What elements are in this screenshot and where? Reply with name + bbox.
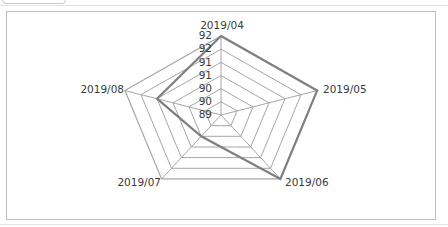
tick-label: 91 — [199, 69, 212, 81]
radial-axis-tick-labels: 92 92 91 91 90 90 89 — [199, 29, 212, 120]
category-label-2019-05: 2019/05 — [323, 83, 367, 95]
tick-label: 90 — [199, 95, 212, 107]
grid-spoke — [221, 91, 317, 115]
radar-chart: 92 92 91 91 90 90 89 2019/04 2019/05 201… — [0, 0, 448, 227]
tick-label: 89 — [199, 108, 212, 120]
tick-label: 90 — [199, 82, 212, 94]
category-label-2019-04: 2019/04 — [200, 19, 244, 31]
tick-label: 92 — [199, 42, 212, 54]
category-label-2019-07: 2019/07 — [117, 176, 161, 188]
tick-label: 91 — [199, 56, 212, 68]
category-label-2019-06: 2019/06 — [285, 176, 329, 188]
chart-container: 92 92 91 91 90 90 89 2019/04 2019/05 201… — [0, 0, 448, 227]
category-label-2019-08: 2019/08 — [80, 83, 124, 95]
